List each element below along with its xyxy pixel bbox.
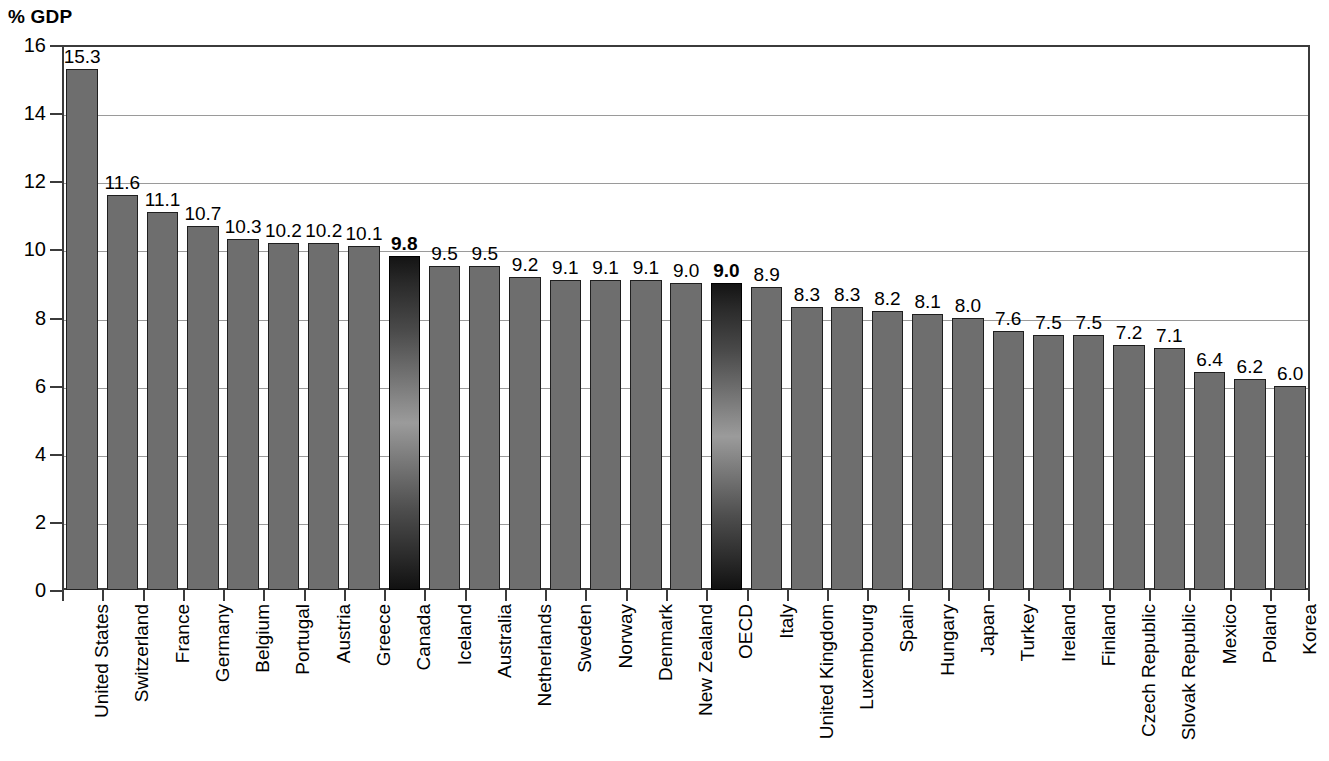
bar-slot: 10.2	[304, 45, 344, 590]
x-tick-mark	[505, 590, 507, 601]
bar[interactable]: 9.5	[469, 266, 500, 590]
bar[interactable]: 7.6	[993, 331, 1024, 590]
bar-highlighted[interactable]: 9.0	[711, 283, 742, 590]
x-tick-mark	[304, 590, 306, 601]
x-tick-mark	[1308, 590, 1310, 601]
bar[interactable]: 10.3	[227, 239, 258, 590]
bar-slot: 7.5	[1028, 45, 1068, 590]
x-label-slot: United Kingdom	[787, 604, 827, 761]
bar-slot: 8.9	[747, 45, 787, 590]
x-label-slot: Czech Republic	[1109, 604, 1149, 761]
y-tick-mark	[50, 318, 62, 320]
x-tick-mark	[1230, 590, 1232, 601]
bar[interactable]: 6.4	[1194, 372, 1225, 590]
x-axis-labels: United StatesSwitzerlandFranceGermanyBel…	[62, 604, 1310, 761]
bar[interactable]: 9.0	[670, 283, 701, 590]
x-label-slot: Hungary	[908, 604, 948, 761]
bar[interactable]: 8.3	[791, 307, 822, 590]
bar[interactable]: 15.3	[66, 69, 97, 590]
x-label-slot: Australia	[465, 604, 505, 761]
bar[interactable]: 8.9	[751, 287, 782, 590]
bar[interactable]: 8.3	[831, 307, 862, 590]
bar-slot: 9.1	[585, 45, 625, 590]
bar-value-label: 8.9	[753, 265, 779, 285]
bar-value-label: 15.3	[64, 47, 101, 67]
x-tick-slot	[384, 590, 424, 602]
x-label-slot: Belgium	[223, 604, 263, 761]
bar-value-label: 11.1	[145, 190, 181, 210]
bar-slot: 7.5	[1069, 45, 1109, 590]
x-tick-mark	[545, 590, 547, 601]
bar[interactable]: 8.1	[912, 314, 943, 590]
bar[interactable]: 7.5	[1033, 335, 1064, 590]
x-label-slot: Japan	[948, 604, 988, 761]
x-label-slot: Ireland	[1028, 604, 1068, 761]
x-label-slot: Sweden	[545, 604, 585, 761]
bar[interactable]: 7.2	[1113, 345, 1144, 590]
x-tick-mark	[827, 590, 829, 601]
bar-value-label: 10.3	[225, 217, 262, 237]
bar[interactable]: 9.1	[630, 280, 661, 590]
bar-value-label: 10.2	[305, 221, 342, 241]
bar[interactable]: 8.2	[872, 311, 903, 590]
bar[interactable]: 6.2	[1234, 379, 1265, 590]
bar-value-label: 7.1	[1156, 326, 1182, 346]
bar-value-label: 9.0	[713, 261, 739, 281]
bar-slot: 10.2	[263, 45, 303, 590]
x-tick-slot	[465, 590, 505, 602]
x-tick-slot	[948, 590, 988, 602]
x-tick-mark	[384, 590, 386, 601]
bar-slot: 10.3	[223, 45, 263, 590]
x-tick-slot	[908, 590, 948, 602]
bar[interactable]: 10.1	[348, 246, 379, 590]
x-tick-slot	[867, 590, 907, 602]
bar[interactable]: 7.1	[1154, 348, 1185, 590]
bar-value-label: 9.5	[431, 244, 457, 264]
bar[interactable]: 9.2	[509, 277, 540, 590]
bar[interactable]: 11.6	[107, 195, 138, 590]
bar-slot: 8.2	[867, 45, 907, 590]
bar-value-label: 9.5	[472, 244, 498, 264]
x-label-slot: New Zealand	[666, 604, 706, 761]
bar-value-label: 8.3	[794, 285, 820, 305]
bar-value-label: 9.1	[592, 258, 618, 278]
bar-highlighted[interactable]: 9.8	[389, 256, 420, 590]
x-tick-slot	[143, 590, 183, 602]
x-tick-slot	[1109, 590, 1149, 602]
y-tick-label: 2	[35, 510, 46, 534]
x-label-slot: Italy	[747, 604, 787, 761]
bar-slot: 9.1	[545, 45, 585, 590]
x-tick-slot	[666, 590, 706, 602]
x-tick-slot	[1189, 590, 1229, 602]
x-tick-mark	[1028, 590, 1030, 601]
bar[interactable]: 6.0	[1274, 386, 1305, 590]
x-tick-slot	[344, 590, 384, 602]
bar[interactable]: 9.5	[429, 266, 460, 590]
x-axis-category-label: Korea	[1300, 604, 1319, 655]
bar-slot: 10.7	[183, 45, 223, 590]
x-tick-mark	[1109, 590, 1111, 601]
bar[interactable]: 10.2	[308, 243, 339, 590]
x-tick-slot	[223, 590, 263, 602]
bar[interactable]: 9.1	[590, 280, 621, 590]
bar[interactable]: 8.0	[952, 318, 983, 591]
x-label-slot: Denmark	[626, 604, 666, 761]
bar[interactable]: 9.1	[550, 280, 581, 590]
y-tick-mark	[50, 249, 62, 251]
x-tick-slot	[706, 590, 746, 602]
x-label-slot: Portugal	[263, 604, 303, 761]
x-label-slot: France	[143, 604, 183, 761]
bar[interactable]: 7.5	[1073, 335, 1104, 590]
bar[interactable]: 10.7	[187, 226, 218, 590]
bar-slot: 10.1	[344, 45, 384, 590]
y-tick-mark	[50, 181, 62, 183]
bar[interactable]: 10.2	[268, 243, 299, 590]
x-tick-slot	[304, 590, 344, 602]
bar-value-label: 6.0	[1277, 364, 1303, 384]
x-tick-mark	[867, 590, 869, 601]
bar[interactable]: 11.1	[147, 212, 178, 590]
x-tick-slot	[626, 590, 666, 602]
x-tick-mark	[787, 590, 789, 601]
y-tick-mark	[50, 45, 62, 47]
bar-slot: 11.6	[102, 45, 142, 590]
